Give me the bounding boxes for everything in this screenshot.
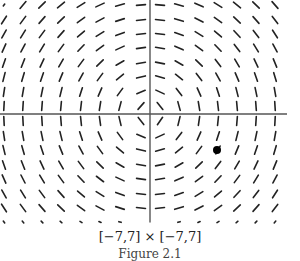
slope-segment (275, 117, 276, 126)
slope-segment (60, 221, 62, 223)
slope-segment (96, 32, 104, 37)
slope-segment (42, 117, 43, 126)
slope-segment (96, 3, 104, 7)
initial-point-marker (213, 146, 221, 154)
slope-segment (215, 161, 220, 168)
slope-segment (254, 161, 258, 169)
slope-segment (116, 177, 124, 181)
slope-segment (156, 33, 165, 34)
slope-segment (175, 147, 182, 153)
slope-segment (156, 62, 165, 64)
slope-segment (80, 221, 82, 222)
figure-caption: Figure 2.1 (0, 247, 300, 261)
slope-segment (116, 163, 124, 168)
slope-segment (156, 76, 165, 78)
slope-segment (78, 191, 85, 197)
slope-segment (274, 146, 276, 155)
slope-segment (137, 20, 146, 21)
slope-segment (21, 30, 26, 38)
slope-segment (175, 19, 184, 22)
slope-segment (137, 178, 146, 179)
slope-segment (119, 222, 121, 223)
slope-segment (80, 132, 83, 141)
slope-segment (41, 88, 43, 97)
slope-segment (195, 18, 203, 22)
slope-segment (214, 205, 221, 210)
slope-segment (3, 4, 4, 6)
slope-segment (236, 221, 238, 223)
slope-segment (196, 73, 201, 80)
slope-segment (156, 193, 165, 194)
slope-segment (99, 102, 100, 111)
slope-segment (195, 192, 203, 197)
slope-segment (273, 190, 278, 198)
slope-segment (39, 30, 44, 37)
slope-segment (256, 102, 257, 111)
slope-segment (77, 17, 84, 22)
slope-segment (58, 17, 65, 23)
slope-segment (157, 117, 162, 124)
slope-segment (235, 161, 240, 169)
slope-segment (234, 17, 241, 23)
slope-segment (77, 205, 84, 210)
slope-segment (39, 2, 45, 8)
slope-segment (156, 178, 165, 179)
slope-segment (235, 146, 238, 154)
slope-segment (237, 102, 238, 111)
slope-segment (3, 221, 4, 223)
slope-segment (40, 44, 45, 52)
slope-segment (255, 146, 258, 155)
slope-segment (99, 221, 101, 222)
slope-segment (273, 30, 278, 38)
slope-segment (119, 102, 121, 111)
slope-segment (3, 88, 4, 97)
slope-segment (274, 73, 277, 82)
slope-segment (119, 117, 121, 126)
slope-segment (116, 207, 125, 210)
slope-segment (214, 17, 221, 22)
slope-segment (235, 73, 239, 81)
slope-segment (80, 88, 83, 97)
slope-segment (215, 45, 221, 51)
slope-segment (58, 31, 64, 38)
slope-segment (175, 177, 183, 181)
slope-segment (117, 88, 122, 95)
slope-segment (234, 31, 240, 38)
slope-segment (116, 4, 125, 6)
slope-segment (58, 205, 65, 211)
slope-segment (117, 147, 124, 153)
slope-segment (137, 164, 146, 166)
slope-segment (234, 175, 239, 182)
slope-segment (217, 132, 220, 141)
slope-segment (253, 30, 258, 37)
slope-segment (254, 44, 259, 52)
slope-segment (272, 2, 278, 9)
slope-segment (197, 88, 201, 96)
slope-segment (97, 146, 102, 153)
slope-segment (272, 204, 277, 211)
slope-segment (3, 59, 6, 67)
slope-segment (253, 2, 259, 8)
slope-segment (39, 205, 45, 212)
slope-segment (99, 117, 100, 126)
slope-segment (197, 132, 201, 140)
slope-segment (78, 31, 85, 37)
slope-segment (23, 102, 24, 111)
slope-segment (237, 117, 238, 126)
slope-segment (175, 4, 184, 6)
slope-segment (175, 207, 184, 210)
slope-segment (275, 102, 276, 111)
slope-segment (254, 59, 258, 67)
slope-segment (273, 175, 277, 183)
slope-segment (21, 175, 25, 183)
slope-segment (175, 32, 183, 35)
slope-segment (175, 46, 183, 50)
slope-segment (156, 149, 165, 151)
slope-segment (217, 102, 218, 111)
slope-segment (273, 59, 276, 67)
slope-segment (116, 61, 124, 66)
slope-segment (81, 117, 82, 126)
slope-segment (215, 176, 221, 183)
slope-segment (2, 16, 7, 24)
slope-segment (21, 44, 25, 52)
